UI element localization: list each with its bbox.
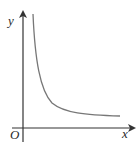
inverse-proportion-graph: y O x: [0, 0, 140, 142]
origin-label: O: [10, 127, 20, 142]
x-axis-label: x: [121, 126, 128, 141]
curve-line: [33, 14, 120, 116]
y-axis-label: y: [6, 13, 14, 28]
